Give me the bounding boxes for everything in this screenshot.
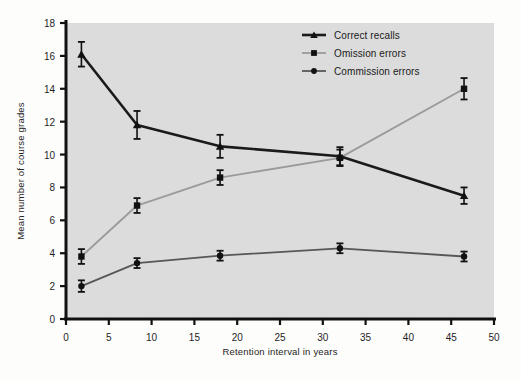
- x-tick-label: 10: [146, 332, 158, 343]
- marker-square: [78, 253, 84, 259]
- legend-marker-square: [311, 50, 317, 56]
- y-axis-title: Mean number of course grades: [15, 102, 26, 240]
- legend-label: Commission errors: [334, 66, 420, 77]
- legend-label: Omission errors: [334, 48, 406, 59]
- x-axis-title: Retention interval in years: [222, 346, 337, 357]
- marker-circle: [78, 283, 84, 289]
- marker-circle: [461, 253, 467, 259]
- x-tick-label: 0: [63, 332, 69, 343]
- marker-square: [461, 86, 467, 92]
- legend-label: Correct recalls: [334, 30, 400, 41]
- y-tick-label: 8: [49, 182, 55, 193]
- x-tick-label: 30: [317, 332, 329, 343]
- plot-area-background: [66, 23, 494, 319]
- x-tick-label: 40: [403, 332, 415, 343]
- y-tick-label: 14: [44, 84, 56, 95]
- y-tick-label: 0: [49, 314, 55, 325]
- x-tick-label: 20: [232, 332, 244, 343]
- marker-square: [217, 174, 223, 180]
- y-tick-label: 4: [49, 248, 55, 259]
- legend-marker-circle: [311, 68, 317, 74]
- y-tick-label: 12: [44, 117, 56, 128]
- y-tick-label: 10: [44, 150, 56, 161]
- x-tick-label: 50: [488, 332, 500, 343]
- x-tick-label: 25: [274, 332, 286, 343]
- y-tick-label: 2: [49, 281, 55, 292]
- y-tick-label: 16: [44, 51, 56, 62]
- line-chart: 05101520253035404550024681012141618 Rete…: [0, 0, 521, 381]
- y-tick-label: 6: [49, 215, 55, 226]
- marker-circle: [134, 260, 140, 266]
- marker-circle: [217, 252, 223, 258]
- figure-container: 05101520253035404550024681012141618 Rete…: [0, 0, 521, 381]
- x-tick-label: 45: [446, 332, 458, 343]
- y-tick-label: 18: [44, 18, 56, 29]
- marker-circle: [337, 245, 343, 251]
- marker-square: [134, 202, 140, 208]
- x-tick-label: 15: [189, 332, 201, 343]
- x-tick-label: 35: [360, 332, 372, 343]
- x-tick-label: 5: [106, 332, 112, 343]
